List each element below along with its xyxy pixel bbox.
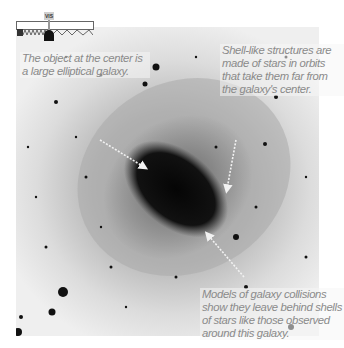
caption-shell-structures: Shell-like structures are made of stars … [220, 44, 344, 96]
caption-collision-models: Models of galaxy collisions show they le… [200, 288, 344, 340]
observatory-dome-icon [44, 30, 54, 41]
wave-icon [17, 29, 93, 36]
caption-center-galaxy: The object at the center is a large elli… [20, 52, 150, 78]
spectrum-band-label: VIS [44, 12, 54, 20]
spectrum-wave-bar [16, 21, 94, 30]
